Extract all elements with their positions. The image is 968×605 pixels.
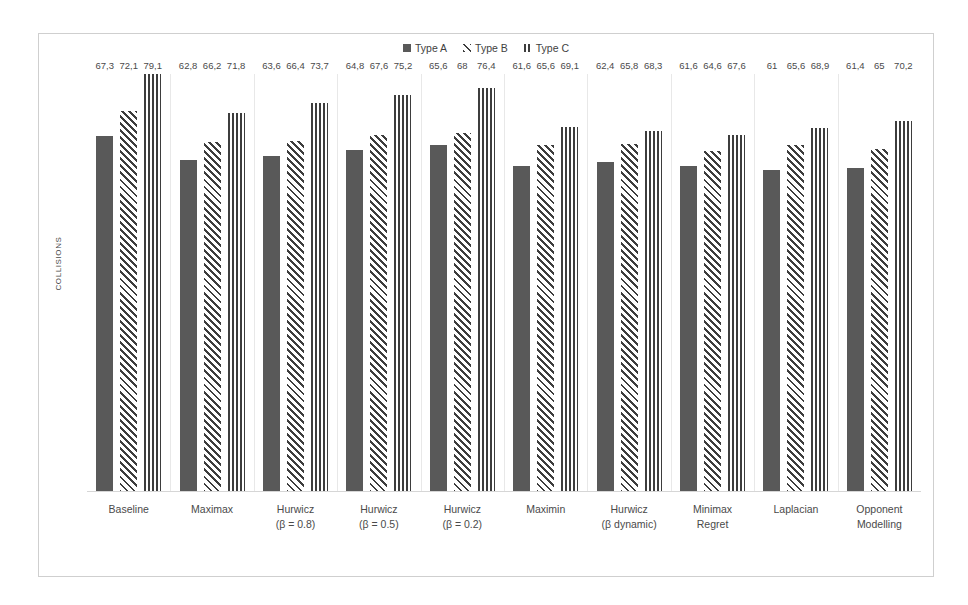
- bar-column[interactable]: 61,4: [847, 74, 864, 492]
- bar[interactable]: [871, 149, 888, 492]
- bar-value-label: 65,6: [429, 60, 448, 71]
- bar-column[interactable]: 67,6: [728, 74, 745, 492]
- bar-value-label: 76,4: [477, 60, 496, 71]
- bar[interactable]: [680, 166, 697, 492]
- bar[interactable]: [204, 142, 221, 492]
- x-axis-label: MinimaxRegret: [671, 496, 754, 540]
- x-axis-line: [87, 491, 921, 492]
- x-axis-label: Baseline: [87, 496, 170, 540]
- bar-value-label: 66,2: [203, 60, 222, 71]
- bar-column[interactable]: 70,2: [895, 74, 912, 492]
- bar-column[interactable]: 62,8: [180, 74, 197, 492]
- bar-column[interactable]: 61: [763, 74, 780, 492]
- bar-value-label: 61: [767, 60, 778, 71]
- bar[interactable]: [787, 145, 804, 492]
- bar[interactable]: [263, 156, 280, 492]
- bar-group: 62,866,271,8: [170, 74, 253, 492]
- bar-group: 64,867,675,2: [337, 74, 420, 492]
- bar-column[interactable]: 68,3: [645, 74, 662, 492]
- bar-column[interactable]: 62,4: [597, 74, 614, 492]
- bar-column[interactable]: 64,8: [346, 74, 363, 492]
- bar[interactable]: [704, 151, 721, 492]
- bar[interactable]: [228, 113, 245, 492]
- bar-column[interactable]: 65,8: [621, 74, 638, 492]
- bar[interactable]: [763, 170, 780, 492]
- bar-value-label: 67,3: [95, 60, 114, 71]
- bar[interactable]: [728, 135, 745, 492]
- bar[interactable]: [346, 150, 363, 492]
- bar-group: 67,372,179,1: [87, 74, 170, 492]
- bar[interactable]: [847, 168, 864, 492]
- bar-column[interactable]: 66,2: [204, 74, 221, 492]
- legend-swatch-type-b: [463, 44, 471, 52]
- bar-column[interactable]: 67,3: [96, 74, 113, 492]
- legend-label-type-a: Type A: [415, 42, 447, 54]
- bar-column[interactable]: 61,6: [680, 74, 697, 492]
- bar-column[interactable]: 69,1: [561, 74, 578, 492]
- bar-group: 65,66876,4: [421, 74, 504, 492]
- bar-column[interactable]: 76,4: [478, 74, 495, 492]
- bar[interactable]: [454, 133, 471, 492]
- x-axis-label: Hurwicz(β = 0.2): [421, 496, 504, 540]
- bar-column[interactable]: 68: [454, 74, 471, 492]
- bar-value-label: 61,6: [679, 60, 698, 71]
- bar-value-label: 75,2: [394, 60, 413, 71]
- bar-column[interactable]: 64,6: [704, 74, 721, 492]
- x-axis-label-line1: Hurwicz: [610, 503, 647, 515]
- bar-column[interactable]: 65,6: [430, 74, 447, 492]
- chart-legend: Type A Type B Type C: [39, 42, 933, 54]
- plot-area: 67,372,179,162,866,271,863,666,473,764,8…: [87, 74, 921, 492]
- x-axis-label-line1: Hurwicz: [360, 503, 397, 515]
- bar[interactable]: [430, 145, 447, 492]
- x-axis-label-line1: Minimax: [693, 503, 732, 515]
- bar[interactable]: [561, 127, 578, 492]
- bar[interactable]: [144, 74, 161, 492]
- x-axis-label: Hurwicz(β dynamic): [587, 496, 670, 540]
- bar-column[interactable]: 79,1: [144, 74, 161, 492]
- bar[interactable]: [597, 162, 614, 492]
- bar-column[interactable]: 68,9: [811, 74, 828, 492]
- bar-column[interactable]: 73,7: [311, 74, 328, 492]
- bar-column[interactable]: 61,6: [513, 74, 530, 492]
- bar[interactable]: [513, 166, 530, 492]
- legend-item-type-b: Type B: [463, 42, 508, 54]
- bar[interactable]: [537, 145, 554, 492]
- bar-column[interactable]: 67,6: [370, 74, 387, 492]
- x-axis-label-line2: (β = 0.8): [254, 517, 337, 532]
- bar[interactable]: [311, 103, 328, 492]
- bar-value-label: 64,8: [346, 60, 365, 71]
- bar[interactable]: [287, 141, 304, 492]
- bar[interactable]: [394, 95, 411, 492]
- x-axis-label: Hurwicz(β = 0.8): [254, 496, 337, 540]
- bar-value-label: 68,9: [811, 60, 830, 71]
- bar[interactable]: [96, 136, 113, 492]
- bar-column[interactable]: 66,4: [287, 74, 304, 492]
- x-axis-label-line1: Maximin: [526, 503, 565, 515]
- legend-swatch-type-a: [403, 44, 411, 52]
- bar[interactable]: [370, 135, 387, 492]
- bar[interactable]: [895, 121, 912, 492]
- x-axis-label: Laplacian: [754, 496, 837, 540]
- bar[interactable]: [811, 128, 828, 492]
- y-axis-title-text: COLLISIONS: [54, 236, 63, 290]
- bar-column[interactable]: 75,2: [394, 74, 411, 492]
- bar-value-label: 65,6: [787, 60, 806, 71]
- x-axis-label-line2: Modelling: [838, 517, 921, 532]
- bar[interactable]: [180, 160, 197, 492]
- bar-column[interactable]: 65: [871, 74, 888, 492]
- bar-column[interactable]: 71,8: [228, 74, 245, 492]
- bar[interactable]: [478, 88, 495, 492]
- bar[interactable]: [120, 111, 137, 492]
- bar[interactable]: [645, 131, 662, 492]
- bar-column[interactable]: 63,6: [263, 74, 280, 492]
- x-axis-label-line1: Laplacian: [773, 503, 818, 515]
- bar-column[interactable]: 65,6: [537, 74, 554, 492]
- bar-column[interactable]: 65,6: [787, 74, 804, 492]
- x-axis-label-line1: Baseline: [109, 503, 149, 515]
- bar-value-label: 70,2: [894, 60, 913, 71]
- bar-group: 6165,668,9: [754, 74, 837, 492]
- bar-column[interactable]: 72,1: [120, 74, 137, 492]
- legend-swatch-type-c: [524, 44, 532, 52]
- bar[interactable]: [621, 144, 638, 492]
- bar-group: 61,46570,2: [838, 74, 921, 492]
